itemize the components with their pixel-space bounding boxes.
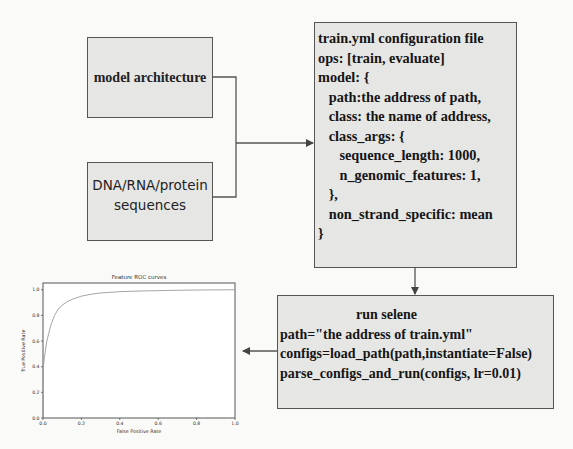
y-tick-label: 1.0 [32,287,39,292]
y-tick-label: 0.8 [32,313,39,318]
x-tick-label: 0.4 [116,421,123,426]
y-axis-label: True Positive Rate [21,330,26,374]
y-tick-label: 0.0 [32,416,39,421]
x-tick-label: 1.0 [231,421,238,426]
chart-title: Feature ROC curves [112,274,167,280]
y-tick-label: 0.2 [32,390,39,395]
x-tick-label: 0.2 [78,421,85,426]
x-tick-label: 0.6 [155,421,162,426]
roc-chart: Feature ROC curves 0.00.20.40.60.81.0 0.… [0,0,573,449]
x-tick-label: 0.8 [193,421,200,426]
x-tick-label: 0.0 [39,421,46,426]
y-tick-label: 0.4 [32,364,39,369]
plot-area [43,283,235,418]
y-tick-label: 0.6 [32,339,39,344]
x-axis-label: False Positive Rate [117,429,162,434]
